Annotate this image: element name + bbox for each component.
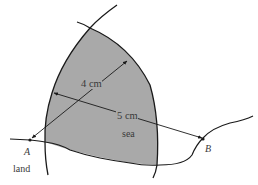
shaded-region xyxy=(45,28,158,165)
point-a-marker xyxy=(28,138,31,141)
locus-diagram: 4 cm 5 cm sea A B land xyxy=(0,0,258,185)
label-5cm: 5 cm xyxy=(117,110,138,121)
label-land: land xyxy=(13,163,30,174)
point-b-marker xyxy=(201,137,204,140)
label-4cm: 4 cm xyxy=(81,78,102,89)
diagram-canvas: 4 cm 5 cm sea A B land xyxy=(0,0,258,185)
label-sea: sea xyxy=(122,128,135,139)
label-point-b: B xyxy=(205,143,211,154)
label-point-a: A xyxy=(23,146,31,157)
